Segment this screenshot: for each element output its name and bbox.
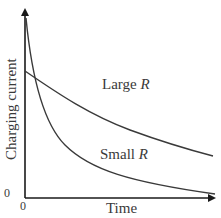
y-origin-label: 0 — [4, 186, 10, 201]
large-r-label: Large R — [102, 76, 150, 93]
chart-canvas — [0, 0, 221, 218]
x-axis-label: Time — [0, 200, 221, 217]
large-r-label-text: Large — [102, 76, 140, 92]
large-r-label-var: R — [140, 76, 149, 92]
small-r-label-text: Small — [100, 146, 139, 162]
small-r-label: Small R — [100, 146, 148, 163]
curve-small-r — [26, 18, 215, 194]
y-axis-label: Charging current — [3, 58, 20, 160]
small-r-label-var: R — [139, 146, 148, 162]
charging-current-chart: Charging current Large R Small R 0 0 Tim… — [0, 0, 221, 218]
